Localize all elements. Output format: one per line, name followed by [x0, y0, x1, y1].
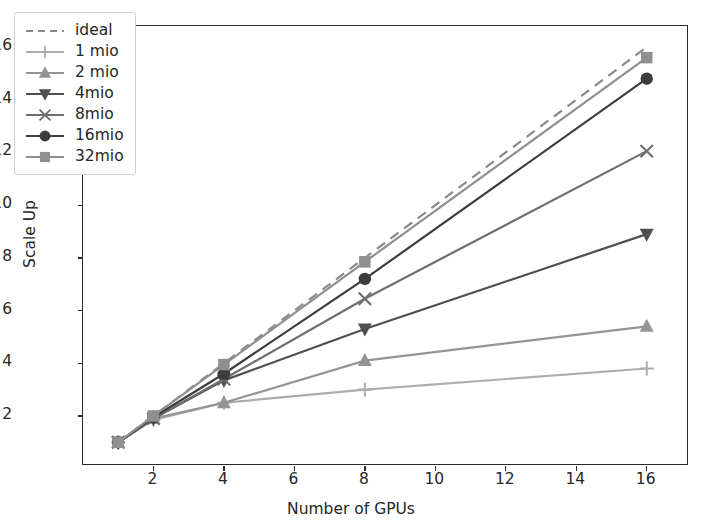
legend-label: 1 mio — [75, 44, 119, 60]
data-point-marker — [641, 52, 653, 64]
legend-item-4mio[interactable]: 4mio — [24, 83, 124, 104]
plot-svg — [83, 26, 689, 466]
x-tick-label: 12 — [485, 472, 525, 488]
series-4mio — [111, 229, 653, 450]
chart-legend: ideal1 mio2 mio4mio8mio16mio32mio — [14, 12, 136, 175]
data-point-marker — [359, 256, 371, 268]
legend-item-32mio[interactable]: 32mio — [24, 146, 124, 167]
legend-swatch-icon — [24, 86, 66, 102]
y-tick-mark — [78, 415, 83, 416]
legend-label: 16mio — [75, 128, 124, 144]
x-tick-label: 14 — [555, 472, 595, 488]
x-tick-label: 16 — [626, 472, 666, 488]
scale-up-chart-figure: Scale Up Number of GPUs ideal1 mio2 mio4… — [0, 0, 702, 531]
legend-label: 32mio — [75, 149, 124, 165]
data-point-marker — [359, 292, 371, 304]
y-tick-mark — [78, 257, 83, 258]
data-point-marker — [358, 383, 372, 397]
y-tick-label: 14 — [0, 91, 12, 107]
x-tick-label: 10 — [414, 472, 454, 488]
data-point-marker — [640, 319, 654, 332]
y-tick-label: 16 — [0, 38, 12, 54]
legend-item-16mio[interactable]: 16mio — [24, 125, 124, 146]
data-point-marker — [112, 437, 124, 449]
y-tick-label: 8 — [0, 249, 12, 265]
data-point-marker — [148, 410, 160, 422]
y-tick-label: 2 — [0, 407, 12, 423]
y-tick-mark — [78, 363, 83, 364]
x-tick-label: 4 — [203, 472, 243, 488]
legend-label: 8mio — [75, 107, 114, 123]
x-tick-label: 2 — [132, 472, 172, 488]
legend-item-2-mio[interactable]: 2 mio — [24, 62, 124, 83]
data-point-marker — [641, 72, 653, 84]
legend-item-ideal[interactable]: ideal — [24, 20, 124, 41]
y-tick-mark — [78, 310, 83, 311]
legend-label: 2 mio — [75, 65, 119, 81]
y-tick-label: 12 — [0, 143, 12, 159]
y-tick-label: 6 — [0, 302, 12, 318]
series-1-mio — [111, 362, 653, 450]
legend-item-1-mio[interactable]: 1 mio — [24, 41, 124, 62]
legend-swatch-icon — [24, 107, 66, 123]
series-line — [118, 151, 646, 442]
y-tick-label: 4 — [0, 354, 12, 370]
x-axis-title: Number of GPUs — [0, 500, 702, 518]
y-axis-title: Scale Up — [21, 164, 39, 304]
series-line — [118, 369, 646, 443]
series-8mio — [112, 145, 653, 449]
legend-label: ideal — [75, 23, 113, 39]
legend-label: 4mio — [75, 86, 114, 102]
legend-swatch-icon — [24, 65, 66, 81]
legend-swatch-icon — [24, 23, 66, 39]
y-tick-mark — [78, 205, 83, 206]
legend-swatch-icon — [24, 149, 66, 165]
plot-area — [82, 25, 688, 465]
legend-item-8mio[interactable]: 8mio — [24, 104, 124, 125]
x-tick-label: 8 — [344, 472, 384, 488]
legend-swatch-icon — [24, 128, 66, 144]
series-line — [118, 58, 646, 443]
x-tick-label: 6 — [273, 472, 313, 488]
y-tick-label: 10 — [0, 196, 12, 212]
series-2-mio — [111, 319, 653, 448]
data-point-marker — [640, 362, 654, 376]
legend-swatch-icon — [24, 44, 66, 60]
data-point-marker — [218, 359, 230, 371]
data-point-marker — [359, 273, 371, 285]
data-point-marker — [641, 145, 653, 157]
